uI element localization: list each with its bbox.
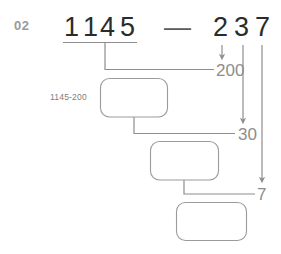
step-number: 02 — [14, 19, 29, 32]
connector-to-carry-30 — [134, 117, 235, 134]
answer-box-1[interactable] — [101, 79, 168, 118]
subtrahend-digit-3: 7 — [255, 14, 270, 41]
carry-label-200: 200 — [216, 62, 244, 79]
minuend-digit-1: 1 — [64, 14, 79, 41]
answer-box-2[interactable] — [151, 142, 219, 181]
subtrahend-digit-2: 3 — [234, 14, 249, 41]
minuend-digit-4: 5 — [120, 14, 135, 41]
worksheet-canvas: 02 1 1 4 5 — 2 3 7 200 30 7 1145-200 — [0, 0, 281, 254]
minuend-digit-2: 1 — [83, 14, 98, 41]
carry-label-7: 7 — [257, 186, 266, 203]
subtrahend-digit-1: 2 — [213, 14, 228, 41]
carry-label-30: 30 — [238, 126, 257, 143]
connector-to-carry-200 — [105, 43, 214, 70]
hint-label-1145-minus-200: 1145-200 — [50, 93, 87, 102]
minuend-digit-3: 4 — [100, 14, 115, 41]
minus-operator: — — [164, 14, 191, 41]
connector-to-carry-7 — [184, 180, 255, 194]
answer-box-3[interactable] — [177, 203, 247, 241]
